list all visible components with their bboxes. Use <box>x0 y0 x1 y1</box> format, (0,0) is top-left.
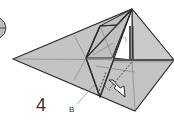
origami-diagram <box>0 0 174 122</box>
previous-step-symbol-icon <box>0 18 6 38</box>
point-label-b: B <box>69 106 74 114</box>
step-number: 4 <box>36 96 46 114</box>
